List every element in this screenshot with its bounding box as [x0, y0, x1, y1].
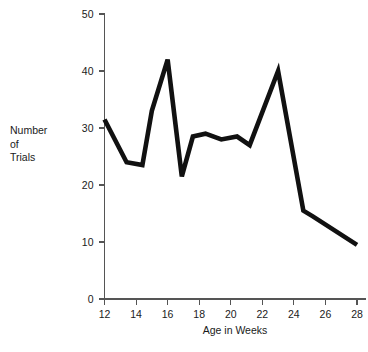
x-tick-label: 28: [351, 308, 363, 320]
x-axis-ticks: 121416182022242628: [99, 293, 363, 320]
y-tick-label: 20: [82, 179, 94, 191]
x-tick-label: 20: [225, 308, 237, 320]
x-tick-label: 18: [193, 308, 205, 320]
x-tick-label: 12: [99, 308, 111, 320]
y-tick-label: 30: [82, 122, 94, 134]
y-tick-label: 50: [82, 8, 94, 20]
line-chart-plot: 01020304050 121416182022242628 Age in We…: [0, 0, 368, 352]
y-tick-label: 40: [82, 65, 94, 77]
data-series-line: [105, 60, 358, 245]
y-tick-label: 10: [82, 236, 94, 248]
x-tick-label: 16: [162, 308, 174, 320]
x-tick-label: 26: [320, 308, 332, 320]
x-tick-label: 14: [130, 308, 142, 320]
x-axis-title: Age in Weeks: [203, 324, 268, 336]
y-axis-ticks: 01020304050: [82, 8, 105, 305]
chart-container: Number of Trials 01020304050 12141618202…: [0, 0, 368, 352]
y-tick-label: 0: [88, 293, 94, 305]
x-tick-label: 22: [256, 308, 268, 320]
x-tick-label: 24: [288, 308, 300, 320]
